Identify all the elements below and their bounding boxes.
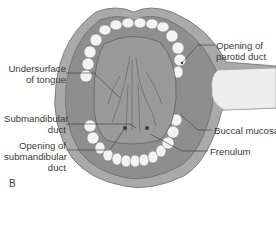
submandibular-opening-left: [123, 126, 127, 130]
cheek-retractor: [212, 68, 276, 110]
label-frenulum: Frenulum: [210, 146, 251, 157]
label-buccal-mucosa: Buccal mucosa: [214, 125, 276, 136]
label-submandibular-duct: Submandibular duct: [4, 113, 66, 135]
submandibular-opening-right: [145, 126, 149, 130]
tongue: [94, 36, 176, 144]
label-undersurface-of-tongue: Undersurface of tongue: [8, 63, 66, 85]
label-opening-of-parotid-duct: Opening of parotid duct: [216, 40, 266, 62]
label-opening-of-submandibular-duct: Opening of submandibular duct: [4, 140, 66, 173]
panel-label: B: [9, 178, 16, 189]
